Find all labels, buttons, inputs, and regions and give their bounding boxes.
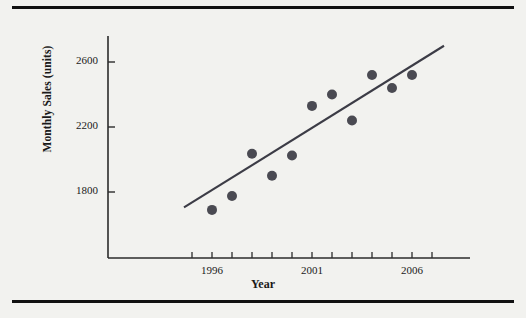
data-point bbox=[327, 90, 337, 100]
data-point bbox=[407, 70, 417, 80]
trendline-group bbox=[184, 46, 444, 208]
y-axis-tick-label: 2200 bbox=[56, 119, 98, 131]
axes-group bbox=[108, 36, 470, 258]
data-point bbox=[227, 191, 237, 201]
data-point bbox=[307, 101, 317, 111]
x-axis-title: Year bbox=[0, 277, 526, 292]
trendline bbox=[184, 46, 444, 208]
data-point bbox=[287, 150, 297, 160]
x-axis-tick-label: 2001 bbox=[287, 264, 337, 276]
data-points-group bbox=[207, 70, 417, 215]
data-point bbox=[247, 149, 257, 159]
data-point bbox=[367, 70, 377, 80]
data-point bbox=[267, 171, 277, 181]
scatter-plot bbox=[0, 0, 526, 318]
figure-container: Monthly Sales (units) Year 180022002600 … bbox=[0, 0, 526, 318]
x-axis-tick-label: 1996 bbox=[187, 264, 237, 276]
data-point bbox=[347, 116, 357, 126]
y-axis-tick-label: 1800 bbox=[56, 184, 98, 196]
data-point bbox=[387, 83, 397, 93]
x-axis-tick-label: 2006 bbox=[387, 264, 437, 276]
y-axis-title: Monthly Sales (units) bbox=[41, 39, 53, 159]
data-point bbox=[207, 205, 217, 215]
y-axis-tick-label: 2600 bbox=[56, 54, 98, 66]
